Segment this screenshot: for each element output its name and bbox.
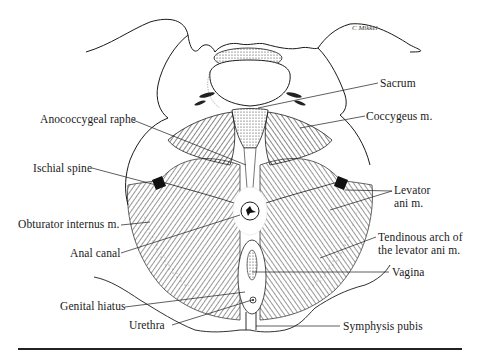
artist-signature: C Mikkel [352,24,377,32]
label-levator-ani-1: Levator [394,184,430,197]
sacrum-bone [194,48,306,108]
label-vagina: Vagina [392,266,425,279]
anatomy-figure: C Mikkel Sacrum Coccygeus m. Levator ani… [0,0,480,360]
label-anal-canal: Anal canal [70,247,121,260]
label-ischial-spine: Ischial spine [33,162,92,175]
label-urethra: Urethra [129,319,165,332]
label-obturator-internus: Obturator internus m. [18,218,119,231]
label-tendinous-arch-2: the levator ani m. [378,244,460,257]
levator-ani-right [260,158,373,320]
anal-canal [233,187,267,235]
label-genital-hiatus: Genital hiatus [60,300,126,313]
label-tendinous-arch-1: Tendinous arch of [378,231,463,244]
label-symphysis-pubis: Symphysis pubis [343,320,423,333]
coccygeus-left [168,112,235,165]
anococcygeal-raphe [244,148,256,188]
coccygeus-right [265,112,332,165]
label-coccygeus: Coccygeus m. [366,110,432,123]
levator-ani-left [127,158,240,320]
bottom-rule [18,348,462,350]
label-levator-ani-2: ani m. [394,197,423,210]
label-sacrum: Sacrum [380,77,416,90]
label-anococcygeal-raphe: Anococcygeal raphe [40,113,136,126]
coccyx [232,109,268,149]
